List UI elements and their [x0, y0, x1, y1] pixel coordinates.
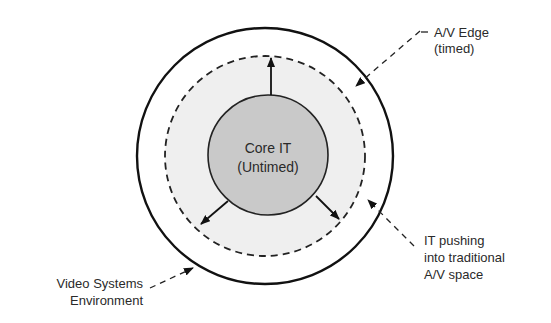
av-edge-label-line2: (timed): [434, 41, 474, 56]
core-it-label: Core IT: [245, 140, 292, 156]
core-untimed-label: (Untimed): [237, 159, 298, 175]
av-edge-label-line1: A/V Edge: [434, 25, 489, 40]
diagram-canvas: Core IT (Untimed) A/V Edge (timed) IT pu…: [0, 0, 551, 323]
it-pushing-label-line3: A/V space: [424, 267, 483, 282]
video-env-label-line2: Environment: [70, 293, 143, 308]
it-pushing-label-line1: IT pushing: [424, 233, 484, 248]
video-env-label-line1: Video Systems: [57, 276, 144, 291]
it-pushing-label-line2: into traditional: [424, 250, 505, 265]
av-edge-leader: [356, 31, 420, 86]
video-env-leader: [150, 268, 193, 288]
